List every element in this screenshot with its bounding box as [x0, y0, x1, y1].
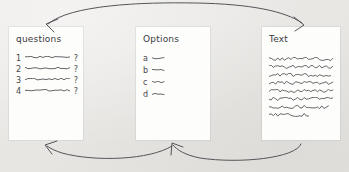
row-suffix: ? — [73, 76, 78, 86]
arrow-text-to-options-path — [173, 144, 301, 160]
text-line — [269, 73, 335, 81]
card-text-lines — [269, 57, 335, 121]
row-rule — [152, 69, 166, 74]
row-marker: a — [143, 54, 152, 64]
row-marker: 4 — [16, 87, 25, 97]
text-line — [269, 89, 335, 97]
row-marker: d — [143, 90, 152, 100]
row: 2? — [16, 64, 78, 75]
row-suffix: ? — [73, 87, 78, 97]
arrow-options-to-questions-head — [45, 141, 57, 154]
row-rule — [25, 56, 73, 61]
text-line — [269, 105, 335, 113]
row-rule — [152, 57, 166, 62]
row: 4? — [16, 86, 78, 97]
diagram-canvas: questions 1?2?3?4? Options abcd Text — [0, 0, 349, 172]
card-questions-title: questions — [16, 34, 61, 45]
row-marker: 3 — [16, 76, 25, 86]
card-options[interactable]: Options abcd — [136, 27, 210, 140]
row: d — [143, 89, 205, 101]
arrow-text-to-options — [171, 143, 301, 160]
card-questions-rows: 1?2?3?4? — [16, 53, 78, 97]
row-marker: 2 — [16, 65, 25, 75]
row: a — [143, 53, 205, 65]
row-marker: c — [143, 78, 152, 88]
row-rule — [152, 81, 166, 86]
card-questions[interactable]: questions 1?2?3?4? — [9, 27, 83, 140]
row-rule — [25, 89, 73, 94]
card-text-body: Text — [262, 27, 340, 140]
row-rule — [152, 93, 166, 98]
card-text-title: Text — [269, 34, 288, 45]
row-marker: b — [143, 66, 152, 76]
card-options-body: Options abcd — [136, 27, 210, 140]
row: c — [143, 77, 205, 89]
row: b — [143, 65, 205, 77]
row-suffix: ? — [73, 65, 78, 75]
card-questions-body: questions 1?2?3?4? — [9, 27, 83, 140]
arrow-options-to-questions — [45, 141, 172, 158]
row-suffix: ? — [73, 54, 78, 64]
text-line — [269, 65, 335, 73]
card-text[interactable]: Text — [262, 27, 340, 140]
row: 1? — [16, 53, 78, 64]
text-line — [269, 81, 335, 89]
text-line — [269, 57, 335, 65]
card-options-rows: abcd — [143, 53, 205, 101]
row-rule — [25, 67, 73, 72]
row: 3? — [16, 75, 78, 86]
row-marker: 1 — [16, 54, 25, 64]
card-options-title: Options — [143, 34, 179, 45]
row-rule — [25, 78, 73, 83]
arrow-text-to-options-head — [171, 143, 183, 155]
arrow-questions-to-text-path — [48, 3, 302, 24]
arrow-options-to-questions-path — [47, 146, 172, 158]
text-line — [269, 113, 335, 121]
text-line — [269, 97, 335, 105]
